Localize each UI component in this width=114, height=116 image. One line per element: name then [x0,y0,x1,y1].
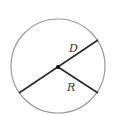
radius-line [58,67,98,93]
circle-diagram: D R [0,0,114,116]
radius-label: R [66,81,75,94]
center-point [56,65,60,69]
diameter-label: D [68,42,78,55]
